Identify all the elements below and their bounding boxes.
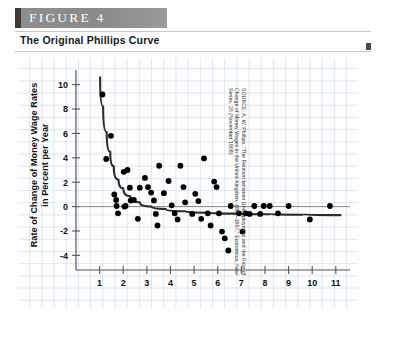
svg-text:10: 10 — [58, 80, 68, 90]
svg-text:9: 9 — [286, 278, 291, 288]
svg-text:5: 5 — [192, 278, 197, 288]
svg-text:4: 4 — [168, 278, 173, 288]
svg-text:6: 6 — [215, 278, 220, 288]
svg-text:-4: -4 — [60, 251, 68, 261]
svg-text:10: 10 — [307, 278, 317, 288]
phillips-curve-plot: -4-202468101234567891011 — [18, 58, 358, 308]
y-axis-title: Rate of Change of Money Wage Rates in Pe… — [29, 80, 51, 250]
header-end-marker — [366, 43, 371, 50]
source-note: SOURCE: A. W. Phillips, “The Relation be… — [227, 88, 247, 288]
figure-title: The Original Phillips Curve — [20, 34, 160, 46]
figure-number-label: FIGURE 4 — [29, 10, 105, 26]
figure-page: FIGURE 4 The Original Phillips Curve -4-… — [0, 0, 417, 339]
header-rule-top — [15, 31, 371, 32]
svg-text:11: 11 — [331, 278, 341, 288]
svg-text:8: 8 — [262, 278, 267, 288]
svg-text:-2: -2 — [60, 226, 68, 236]
svg-text:0: 0 — [63, 202, 68, 212]
chart-container: -4-202468101234567891011 Rate of Change … — [18, 58, 358, 308]
svg-text:8: 8 — [63, 104, 68, 114]
svg-text:1: 1 — [97, 278, 102, 288]
svg-text:3: 3 — [144, 278, 149, 288]
svg-text:2: 2 — [63, 178, 68, 188]
banner-tab-accent — [15, 8, 21, 28]
svg-text:6: 6 — [63, 129, 68, 139]
figure-banner: FIGURE 4 — [15, 8, 167, 28]
header-rule-bottom — [15, 51, 371, 52]
svg-text:4: 4 — [63, 153, 68, 163]
svg-text:2: 2 — [121, 278, 126, 288]
